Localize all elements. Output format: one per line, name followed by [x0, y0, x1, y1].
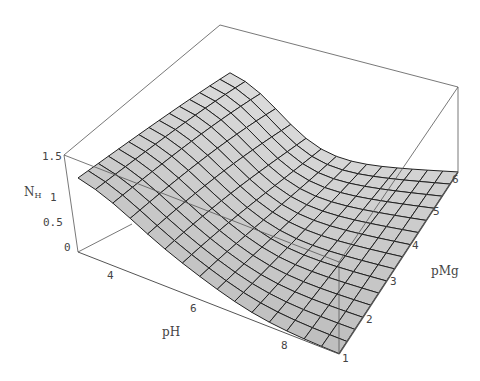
surface-mesh: [78, 73, 458, 354]
x-axis-label: pH: [162, 325, 180, 339]
y-tick-4: 4: [412, 239, 419, 252]
y-tick-3: 3: [390, 275, 397, 288]
x-tick-8: 8: [281, 339, 288, 352]
z-tick-1.5: 1.5: [42, 150, 62, 163]
plot-canvas: 1.5 1 0.5 0 NH 4 6 8 pH 1 2 3 4 5 6 pMg: [0, 0, 480, 381]
y-axis-label: pMg: [431, 264, 459, 278]
z-tick-0.5: 0.5: [43, 216, 63, 229]
y-tick-2: 2: [366, 313, 373, 326]
x-tick-6: 6: [190, 302, 197, 315]
y-tick-6: 6: [452, 173, 459, 186]
x-tick-4: 4: [107, 269, 114, 282]
y-tick-5: 5: [433, 205, 440, 218]
z-tick-1: 1: [50, 191, 57, 204]
z-tick-0: 0: [64, 241, 71, 254]
y-tick-1: 1: [342, 352, 349, 365]
z-axis-label: NH: [24, 185, 42, 200]
surface-plot: 1.5 1 0.5 0 NH 4 6 8 pH 1 2 3 4 5 6 pMg: [0, 0, 480, 381]
